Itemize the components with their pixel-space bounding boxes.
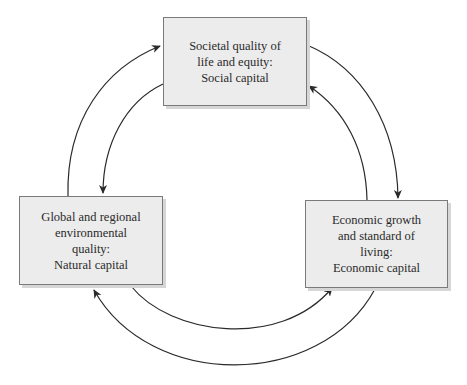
natural-capital-line-1: Global and regional (41, 209, 140, 225)
arrow-natural-to-economic (131, 286, 332, 329)
arrow-natural-to-social (68, 46, 160, 196)
natural-capital-line-4: Natural capital (54, 257, 128, 273)
economic-capital-line-4: Economic capital (333, 260, 420, 276)
economic-capital-line-2: and standard of (338, 228, 415, 244)
arrow-economic-to-natural (94, 289, 375, 365)
social-capital-line-3: Social capital (201, 70, 269, 86)
social-capital-box: Societal quality of life and equity: Soc… (163, 17, 307, 106)
social-capital-line-2: life and equity: (197, 54, 273, 70)
economic-capital-line-1: Economic growth (332, 212, 421, 228)
economic-capital-box: Economic growth and standard of living: … (305, 200, 448, 288)
capital-cycle-diagram: Societal quality of life and equity: Soc… (0, 0, 467, 385)
arrow-social-to-natural (103, 84, 163, 193)
arrow-economic-to-social (309, 86, 367, 200)
economic-capital-line-3: living: (360, 244, 393, 260)
natural-capital-line-3: quality: (72, 241, 110, 257)
natural-capital-line-2: environmental (55, 225, 127, 241)
natural-capital-box: Global and regional environmental qualit… (19, 196, 163, 285)
arrow-social-to-economic (307, 45, 398, 198)
social-capital-line-1: Societal quality of (189, 38, 281, 54)
